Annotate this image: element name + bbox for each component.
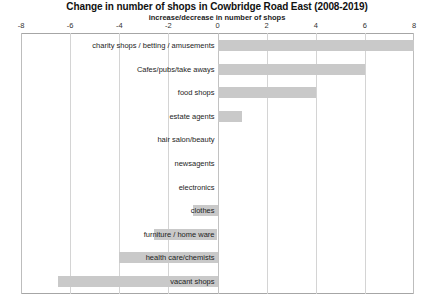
category-label: food shops (178, 88, 215, 97)
bar[interactable] (218, 64, 365, 75)
bar[interactable] (218, 87, 316, 98)
x-tick-label--6: -6 (67, 21, 74, 30)
bar-row: estate agents (21, 111, 414, 122)
x-tick-label-4: 4 (314, 21, 318, 30)
x-tick-label-2: 2 (265, 21, 269, 30)
bar[interactable] (218, 40, 415, 51)
bar[interactable] (218, 111, 243, 122)
bar-row: food shops (21, 87, 414, 98)
bar-row: health care/chemists (21, 252, 414, 263)
bar-row: furniture / home ware (21, 229, 414, 240)
x-tick-label--4: -4 (116, 21, 123, 30)
bar-row: vacant shops (21, 276, 414, 287)
plot-area: -8-6-4-202468 charity shops / betting / … (21, 33, 414, 294)
category-label: charity shops / betting / amusements (92, 41, 214, 50)
bar-rows: charity shops / betting / amusementsCafe… (21, 33, 414, 294)
bar-row: Cafes/pubs/take aways (21, 64, 414, 75)
chart-title: Change in number of shops in Cowbridge R… (0, 1, 434, 13)
bar-row: charity shops / betting / amusements (21, 40, 414, 51)
category-label: newsagents (174, 159, 214, 168)
category-label: clothes (191, 206, 215, 215)
bar-row: electronics (21, 182, 414, 193)
x-tick-label-6: 6 (363, 21, 367, 30)
category-label: estate agents (169, 112, 214, 121)
category-label: furniture / home ware (144, 230, 215, 239)
chart-header: Change in number of shops in Cowbridge R… (0, 1, 434, 23)
bar-row: hair salon/beauty (21, 134, 414, 145)
x-tick-label-8: 8 (412, 21, 416, 30)
category-label: health care/chemists (146, 253, 215, 262)
category-label: electronics (179, 183, 215, 192)
category-label: Cafes/pubs/take aways (137, 65, 215, 74)
category-label: hair salon/beauty (157, 135, 214, 144)
x-tick-label--2: -2 (165, 21, 172, 30)
bar-row: clothes (21, 205, 414, 216)
x-tick-label-0: 0 (215, 21, 219, 30)
x-tick-label--8: -8 (18, 21, 25, 30)
chart-container: Change in number of shops in Cowbridge R… (0, 0, 434, 305)
category-label: vacant shops (170, 277, 214, 286)
bar-row: newsagents (21, 158, 414, 169)
